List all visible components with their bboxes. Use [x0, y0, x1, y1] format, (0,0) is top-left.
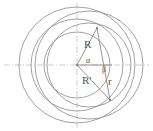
- point-center: [76, 64, 78, 66]
- label-radius-outer: R: [84, 38, 92, 50]
- point-lower: [109, 99, 111, 101]
- geometry-diagram: R R' r α β: [0, 0, 153, 131]
- label-angle-beta: β: [102, 65, 106, 74]
- label-radius-small: r: [108, 75, 112, 87]
- point-upper: [96, 27, 98, 29]
- diagram-canvas: R R' r α β: [0, 0, 153, 131]
- label-radius-inner: R': [82, 74, 91, 86]
- label-angle-alpha: α: [86, 56, 91, 65]
